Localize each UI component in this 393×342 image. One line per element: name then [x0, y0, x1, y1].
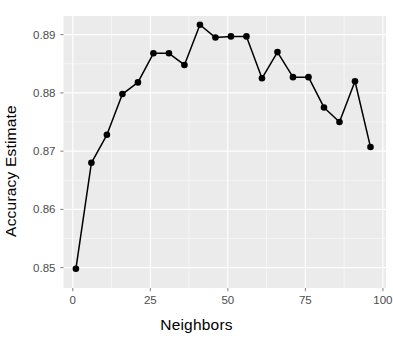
- data-point: [352, 78, 359, 85]
- data-point: [259, 75, 266, 82]
- data-point: [212, 34, 219, 41]
- data-point: [274, 49, 281, 56]
- data-point: [336, 119, 343, 126]
- y-axis-title: Accuracy Estimate: [0, 0, 22, 342]
- y-tick-label: 0.86: [22, 203, 56, 215]
- data-point: [104, 132, 111, 139]
- data-point: [119, 91, 126, 98]
- data-point: [181, 62, 188, 69]
- accuracy-vs-neighbors-line-chart: Accuracy Estimate Neighbors 0.850.860.87…: [0, 0, 393, 342]
- plot-area: [0, 0, 393, 342]
- y-tick-label: 0.85: [22, 262, 56, 274]
- data-point: [135, 79, 142, 86]
- data-point: [305, 74, 312, 81]
- y-tick-label: 0.88: [22, 87, 56, 99]
- data-point: [88, 159, 95, 166]
- x-axis-title: Neighbors: [0, 316, 393, 334]
- data-point: [243, 33, 250, 40]
- data-point: [290, 74, 297, 81]
- data-point: [197, 21, 204, 28]
- data-point: [73, 265, 80, 272]
- x-tick-label: 50: [221, 294, 234, 306]
- x-tick-label: 0: [70, 294, 76, 306]
- x-tick-label: 100: [373, 294, 392, 306]
- x-tick-label: 25: [144, 294, 157, 306]
- x-tick-label: 75: [299, 294, 312, 306]
- data-point: [367, 144, 374, 151]
- data-point: [321, 104, 328, 111]
- data-point: [228, 33, 235, 40]
- panel-background: [64, 16, 387, 288]
- data-point: [166, 50, 173, 57]
- y-tick-label: 0.87: [22, 145, 56, 157]
- data-point: [150, 50, 157, 57]
- y-tick-label: 0.89: [22, 29, 56, 41]
